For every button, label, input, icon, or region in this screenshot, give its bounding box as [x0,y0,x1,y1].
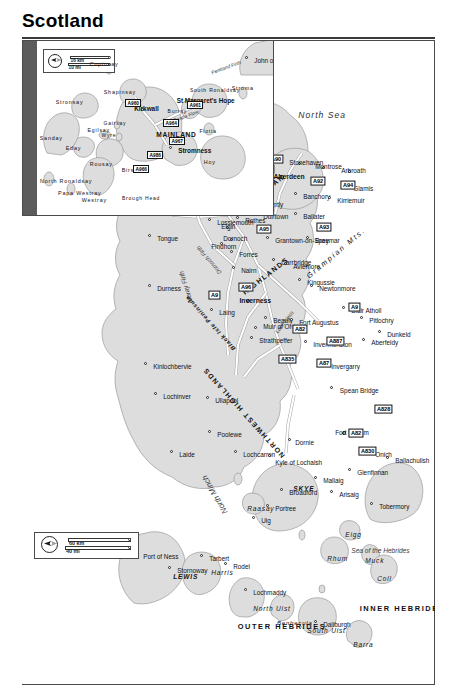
region-label-muck: Muck [365,558,384,565]
road-shield-a94: A94 [340,181,355,190]
map-canvas[interactable]: North Sea Moray Firth North Minch Sea of… [22,40,435,685]
orkney-town-label-john-o-groats: John o' Groats [254,58,274,64]
town-label-broadford: Broadford [289,490,317,496]
town-label-laide: Laide [179,452,195,458]
scale-label-miles: 40 mi [66,548,80,554]
road-shield-a87: A87 [316,359,331,368]
town-label-lochmaddy: Lochmaddy [253,590,286,596]
water-label-sea-of-the-hebrides: Sea of the Hebrides [351,548,409,555]
road-shield-a835: A835 [278,355,296,364]
orkney-island-label-rousay: Rousay [90,162,113,167]
region-label-barra: Barra [353,642,373,649]
road-shield-a828: A828 [374,405,392,414]
town-label-ballachulish: Ballachulish [395,458,429,464]
orkney-road-shield-a986: A986 [147,151,163,159]
town-label-montrose: Montrose [315,164,342,170]
town-label-lochinver: Lochinver [163,394,191,400]
orkney-scale-label-km: 16 km [71,58,85,63]
town-label-pitlochry: Pitlochry [369,318,394,324]
town-label-tongue: Tongue [157,236,178,242]
town-label-rodel: Rodel [233,564,250,570]
orkney-scale-bar-km-end [108,56,111,59]
town-label-spean-bridge: Spean Bridge [340,387,379,395]
road-shield-a95: A95 [256,225,271,234]
town-label-muir-of-ord: Muir of Ord [263,324,295,330]
road-shield-a96: A96 [238,283,253,292]
north-arrow-compass-icon [41,536,58,553]
region-label-harris: Harris [211,570,233,577]
town-label-stornoway: Stornoway [177,568,207,574]
region-label-rhum: Rhum [327,556,348,563]
road-shield-a82: A82 [292,325,307,334]
town-label-dornoch: Dornoch [223,236,247,242]
town-label-dunkeld: Dunkeld [387,332,410,338]
town-label-portree: Portree [275,506,296,512]
town-label-laing: Laing [219,310,235,316]
road-shield-a9-north: A9 [208,291,220,300]
title-divider [22,37,435,39]
town-label-ullapool: Ullapool [215,398,238,404]
town-label-arisaig: Arisaig [339,492,359,498]
scale-bar-box: 40 mi 60 km [34,532,139,559]
town-label-kyle-of-lochalsh: Kyle of Lochalsh [275,460,322,466]
town-label-dornie: Dornie [295,440,314,446]
region-label-raasay: Raasay [247,506,274,513]
orkney-island-label-stroma: Stroma [232,86,254,91]
town-label-kinlochbervie: Kinlochbervie [153,364,191,370]
orkney-island-label-copinsay: Copinsay [90,62,119,67]
town-label-carrbridge: Carrbridge [281,260,311,266]
page-title: Scotland [22,10,104,32]
road-shield-a82-fortwilliam: A82 [348,429,363,438]
orkney-island-label-brough-head: Brough Head [122,196,160,202]
region-label-benbecula: Benbecula [277,620,313,626]
town-label-uig: Uig [261,518,271,524]
town-label-banchory: Banchory [303,194,330,200]
orkney-island-label-gairsay: Gairsay [104,121,127,126]
road-shield-a830: A830 [358,447,376,456]
region-label-eigg: Eigg [345,532,361,539]
orkney-island-label-westray: Westray [82,198,107,203]
road-shield-a9-south: A9 [348,303,360,312]
road-shield-a92: A92 [310,177,325,186]
orkney-island-label-shapinsay: Shapinsay [104,90,136,95]
town-label-findhorn: Findhorn [211,244,236,250]
region-label-inner-hebrides: INNER HEBRIDES [360,605,435,612]
orkney-north-arrow-compass-icon [48,54,62,68]
town-label-ballater: Ballater [303,214,325,220]
orkney-island-label-hoy: Hoy [204,160,216,165]
orkney-town-label-stromness: Stromness [178,148,211,154]
town-label-braemar: Braemar [315,238,340,244]
town-label-glamis: Glamis [353,186,373,192]
town-label-invergarry: Invergarry [331,364,360,370]
town-label-onich: Onich [375,452,392,458]
region-label-coll: Coll [377,576,392,583]
orkney-island-label-papa-westray: Papa Westray [58,190,101,196]
road-shield-a887: A887 [326,337,344,346]
orkney-island-label-eday: Eday [66,146,82,151]
map-frame[interactable]: North Sea Moray Firth North Minch Sea of… [22,40,435,685]
town-label-mallaig: Mallaig [323,478,343,484]
orkney-scale-label-miles: 10 mi [69,65,81,70]
scale-label-km: 60 km [69,540,84,546]
orkney-island-label-sanday: Sanday [40,136,63,141]
region-label-north-uist: North Uist [253,606,290,613]
town-label-durness: Durness [157,286,181,292]
town-label-glenfinnan: Glenfinnan [357,470,388,476]
town-label-newtonmore: Newtonmore [319,286,355,292]
orkney-inset-panel[interactable]: The Orkney Islands [22,40,274,216]
orkney-island-label-north-ronaldsay: North Ronaldsay [40,178,92,184]
town-label-strathpeffer: Strathpeffer [259,338,292,344]
orkney-town-label-st-margarets-hope: St Margaret's Hope [177,97,235,104]
town-label-inverness: Inverness [239,298,271,305]
town-label-forres: Forres [239,252,257,258]
town-label-aberdeen: Aberdeen [273,174,304,181]
town-label-port-of-ness: Port of Ness [143,554,178,560]
region-label-lewis: LEWIS [173,574,198,581]
town-label-daliburgh: Daliburgh [323,622,350,628]
town-label-kirriemuir: Kirriemuir [337,198,364,204]
orkney-road-shield-a967: A967 [169,137,185,145]
orkney-road-shield-a960: A960 [125,99,141,107]
orkney-island-label-stronsay: Stronsay [56,100,84,105]
water-label-north-sea: North Sea [298,111,346,120]
town-label-aberfeldy: Aberfeldy [371,340,398,346]
